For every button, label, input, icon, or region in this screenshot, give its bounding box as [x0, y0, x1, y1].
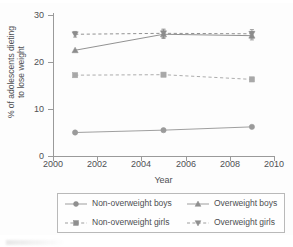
- y-axis-title: % of adolescents dietingto lose weight: [6, 12, 26, 132]
- legend-item-overweight-girls[interactable]: Overweight girls: [180, 218, 284, 228]
- y-axis-title-line2: to lose weight: [16, 46, 26, 98]
- scan-artifact: [6, 240, 66, 245]
- legend-item-non-overweight-boys[interactable]: Non-overweight boys: [58, 199, 180, 209]
- page-top-margin: [0, 0, 293, 3]
- square-marker: [64, 218, 88, 228]
- legend-item-non-overweight-girls[interactable]: Non-overweight girls: [58, 218, 180, 228]
- legend-item-overweight-boys[interactable]: Overweight boys: [180, 199, 284, 209]
- legend-label: Non-overweight girls: [92, 218, 169, 227]
- legend-label: Overweight girls: [214, 218, 275, 227]
- y-axis-title-line1: % of adolescents dieting: [6, 26, 16, 118]
- x-tick-label-2002: 2002: [77, 160, 117, 169]
- x-tick-label-2000: 2000: [33, 160, 73, 169]
- x-tick-label-2010: 2010: [254, 160, 293, 169]
- series-plot: [53, 13, 274, 159]
- legend-label: Overweight boys: [214, 199, 277, 208]
- legend-label: Non-overweight boys: [92, 199, 172, 208]
- circle-marker: [64, 199, 88, 209]
- x-axis-title: Year: [53, 175, 274, 185]
- triangle-up-marker: [186, 199, 210, 209]
- x-tick-label-2006: 2006: [166, 160, 206, 169]
- chart-figure: 30 20 10 0 % of adolescents dietingto lo…: [0, 0, 293, 247]
- x-tick-label-2004: 2004: [121, 160, 161, 169]
- chart-legend: Non-overweight boysOverweight boysNon-ov…: [57, 193, 285, 233]
- triangle-down-marker: [186, 218, 210, 228]
- x-tick-label-2008: 2008: [210, 160, 250, 169]
